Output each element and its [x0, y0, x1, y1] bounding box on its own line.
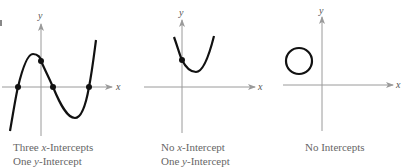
- parabola-curve: [174, 36, 214, 72]
- panel-circle: y x: [283, 5, 401, 131]
- y-axis-label: y: [318, 5, 324, 16]
- caption-line: One y-Intercept: [13, 154, 93, 168]
- y-intercept-point: [38, 58, 44, 64]
- caption-cubic: Three x-Intercepts One y-Intercept: [13, 140, 93, 168]
- x-axis-label: x: [257, 81, 263, 92]
- caption-text: -Intercept: [39, 155, 82, 167]
- x-axis-label: x: [115, 81, 121, 92]
- circle-curve: [286, 48, 312, 74]
- panel-cubic: y x: [2, 10, 121, 136]
- caption-line: One y-Intercept: [161, 154, 230, 168]
- caption-line: No x-Intercept: [161, 140, 230, 154]
- caption-text: No: [161, 141, 177, 153]
- caption-circle: No Intercepts: [305, 140, 365, 154]
- y-axis-label: y: [37, 10, 43, 21]
- caption-text: -Intercept: [182, 141, 225, 153]
- y-axis-label: y: [178, 7, 184, 18]
- caption-line: Three x-Intercepts: [13, 140, 93, 154]
- caption-text: -Intercept: [187, 155, 230, 167]
- caption-line: No Intercepts: [305, 140, 365, 154]
- x-intercept-point: [50, 84, 56, 90]
- x-intercept-point: [15, 84, 21, 90]
- caption-text: -Intercepts: [46, 141, 93, 153]
- x-axis-label: x: [395, 79, 401, 90]
- x-intercept-point: [86, 84, 92, 90]
- caption-text: Three: [13, 141, 41, 153]
- panel-parabola: y x: [144, 7, 263, 133]
- caption-text: One: [13, 155, 34, 167]
- caption-text: One: [161, 155, 182, 167]
- y-intercept-point: [179, 57, 185, 63]
- caption-parabola: No x-Intercept One y-Intercept: [161, 140, 230, 168]
